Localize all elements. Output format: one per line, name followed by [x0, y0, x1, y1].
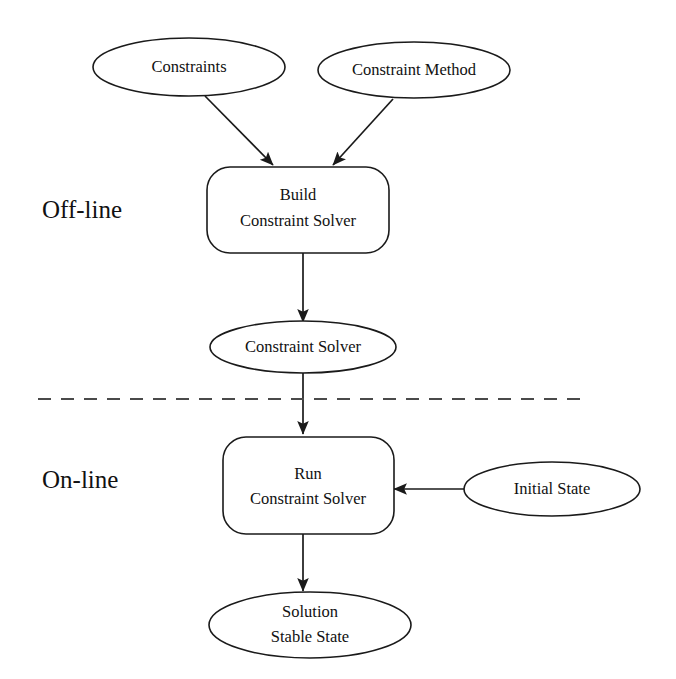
node-run-constraint-solver[interactable]: Run Constraint Solver [223, 437, 394, 534]
nodes-layer: Constraints Constraint Method Build Cons… [93, 38, 640, 658]
node-solution-stable-state[interactable]: Solution Stable State [209, 592, 411, 658]
phase-label-offline: Off-line [42, 196, 122, 223]
build-constraint-solver-label-line2: Constraint Solver [240, 211, 356, 230]
build-constraint-solver-label-line1: Build [280, 185, 317, 204]
constraint-method-label: Constraint Method [352, 60, 477, 79]
flow-diagram: Constraints Constraint Method Build Cons… [0, 0, 676, 679]
constraints-label: Constraints [151, 57, 226, 76]
node-constraint-method[interactable]: Constraint Method [318, 42, 510, 98]
run-constraint-solver-label-line1: Run [294, 464, 322, 483]
diagram-canvas: Constraints Constraint Method Build Cons… [0, 0, 676, 679]
node-constraints[interactable]: Constraints [93, 38, 285, 96]
node-constraint-solver[interactable]: Constraint Solver [210, 321, 396, 373]
phase-labels-layer: Off-line On-line [42, 196, 122, 493]
edge-constraints-to-build [205, 96, 273, 165]
constraint-solver-label: Constraint Solver [245, 337, 361, 356]
node-build-constraint-solver[interactable]: Build Constraint Solver [207, 167, 389, 253]
edge-method-to-build [333, 99, 393, 165]
run-constraint-solver-label-line2: Constraint Solver [250, 489, 366, 508]
node-initial-state[interactable]: Initial State [464, 462, 640, 516]
phase-label-online: On-line [42, 466, 118, 493]
initial-state-label: Initial State [514, 479, 591, 498]
solution-stable-state-label-line1: Solution [282, 602, 338, 621]
run-constraint-solver-box [223, 437, 394, 534]
solution-stable-state-label-line2: Stable State [271, 627, 349, 646]
